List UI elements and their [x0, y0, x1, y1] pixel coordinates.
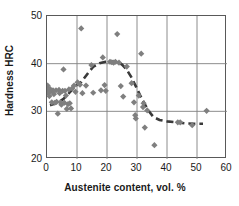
data-point-marker: [114, 31, 120, 37]
plot-area: [46, 15, 226, 158]
data-point-marker: [60, 66, 66, 72]
x-axis-tick-label: 20: [91, 162, 121, 173]
y-axis-tick-label: 40: [2, 57, 42, 68]
x-axis-tick-label: 10: [61, 162, 91, 173]
x-axis-tick-label: 60: [211, 162, 239, 173]
data-point-marker: [120, 93, 126, 99]
data-markers: [47, 25, 210, 148]
x-axis-tick-label: 0: [31, 162, 61, 173]
y-axis-title: Hardness HRC: [0, 0, 20, 160]
data-point-marker: [100, 54, 106, 60]
y-axis-tick-label: 50: [2, 10, 42, 21]
y-axis-tick-label: 30: [2, 105, 42, 116]
data-point-marker: [83, 82, 89, 88]
x-axis-tick-label: 30: [121, 162, 151, 173]
trend-line: [50, 61, 203, 123]
data-point-marker: [103, 88, 109, 94]
x-axis-tick-label: 40: [151, 162, 181, 173]
data-point-marker: [98, 87, 104, 93]
data-point-marker: [151, 142, 157, 148]
data-point-marker: [90, 90, 96, 96]
x-axis-title: Austenite content, vol. %: [20, 182, 230, 193]
x-axis-tick-label: 50: [181, 162, 211, 173]
data-point-marker: [204, 108, 210, 114]
data-point-marker: [131, 99, 137, 105]
data-point-marker: [78, 25, 84, 31]
data-point-marker: [142, 124, 148, 130]
trend-line-path: [50, 61, 203, 123]
chart-figure: Hardness HRC 20304050 0102030405060 Aust…: [0, 0, 239, 206]
data-point-marker: [118, 83, 124, 89]
data-point-marker: [79, 90, 85, 96]
scatter-plot-canvas: [47, 16, 227, 159]
data-point-marker: [138, 51, 144, 57]
